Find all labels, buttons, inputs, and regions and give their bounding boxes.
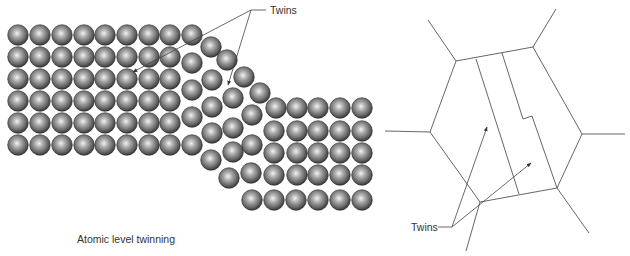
atom [308, 98, 329, 119]
atom [95, 47, 116, 68]
atom [242, 135, 263, 156]
atom [223, 142, 244, 163]
atom [52, 113, 73, 134]
grain-boundary-line [557, 188, 589, 233]
grain-boundary-hexagon [430, 47, 582, 202]
atom [160, 25, 181, 46]
atom [308, 143, 329, 164]
atom [74, 47, 95, 68]
atom [74, 69, 95, 90]
atom [74, 135, 95, 156]
atom [52, 69, 73, 90]
atom [95, 25, 116, 46]
atom [219, 168, 240, 189]
atom [202, 70, 223, 91]
atom [202, 97, 223, 118]
atom [95, 113, 116, 134]
atom [30, 113, 51, 134]
atom [95, 135, 116, 156]
atom [330, 98, 351, 119]
left-twins-label: Twins [270, 4, 297, 16]
atom [264, 190, 285, 211]
atom [352, 165, 373, 186]
atom [330, 143, 351, 164]
atom [95, 69, 116, 90]
atom [242, 105, 263, 126]
atom [8, 113, 29, 134]
twin-boundary-line [476, 59, 519, 194]
atom [30, 135, 51, 156]
atom [8, 47, 29, 68]
grain-twinning-panel: Twins [385, 9, 625, 251]
atom [117, 47, 138, 68]
atom [352, 98, 373, 119]
atom [287, 143, 308, 164]
atom [234, 67, 255, 88]
atom [308, 121, 329, 142]
atom [160, 113, 181, 134]
atom [30, 47, 51, 68]
atom [8, 135, 29, 156]
atom [241, 163, 262, 184]
atom [30, 91, 51, 112]
atom [74, 25, 95, 46]
right-twins-callout [438, 127, 531, 227]
atom [352, 190, 373, 211]
atom [160, 47, 181, 68]
grain-boundary-line [466, 202, 480, 251]
grain-boundary-line [428, 20, 456, 61]
atom [117, 91, 138, 112]
atom [30, 25, 51, 46]
twinning-diagram: Twins Atomic level twinning Twins [0, 0, 630, 256]
atom [330, 165, 351, 186]
atom [117, 25, 138, 46]
atom [182, 135, 203, 156]
grain-boundary-line [533, 9, 556, 47]
atom [182, 25, 203, 46]
atom [139, 113, 160, 134]
atomic-twinning-caption: Atomic level twinning [77, 233, 175, 245]
atom [139, 25, 160, 46]
atom [139, 47, 160, 68]
atom [160, 135, 181, 156]
atom [52, 25, 73, 46]
atom [287, 165, 308, 186]
atom [74, 91, 95, 112]
atom-lattice [8, 25, 373, 211]
atom [352, 121, 373, 142]
right-twins-label: Twins [411, 221, 438, 233]
atom [201, 150, 222, 171]
atom [264, 165, 285, 186]
atom [117, 135, 138, 156]
atom [8, 69, 29, 90]
atom [52, 91, 73, 112]
atom [30, 69, 51, 90]
atom [286, 190, 307, 211]
atom [52, 47, 73, 68]
arrow-icon [452, 127, 487, 227]
atom [330, 190, 351, 211]
atom [352, 143, 373, 164]
atom [182, 107, 203, 128]
grain-boundary-line [385, 131, 430, 132]
atom [160, 69, 181, 90]
atom [287, 98, 308, 119]
atom [266, 98, 287, 119]
atom [250, 83, 271, 104]
atom [117, 113, 138, 134]
atom [287, 121, 308, 142]
atom [330, 121, 351, 142]
atom [264, 121, 285, 142]
atom [8, 91, 29, 112]
atom [139, 91, 160, 112]
atom [223, 88, 244, 109]
atom [95, 91, 116, 112]
atom [242, 190, 263, 211]
atom [223, 118, 244, 139]
atom [139, 135, 160, 156]
atom [264, 143, 285, 164]
twin-boundaries [476, 53, 557, 194]
atomic-twinning-panel: Twins Atomic level twinning [8, 4, 373, 245]
atom [182, 80, 203, 101]
atom [202, 123, 223, 144]
